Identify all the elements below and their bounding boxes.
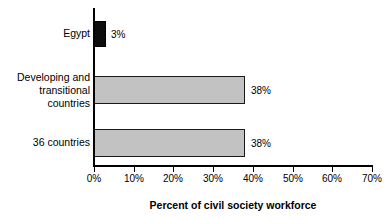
x-tick-70 — [372, 167, 373, 172]
plot-area: Egypt Developing and transitional countr… — [0, 0, 392, 220]
x-tick-label-50: 50% — [273, 173, 313, 185]
bar-value-developing-and-transitional-countries: 38% — [251, 85, 271, 96]
bar-36-countries — [94, 129, 245, 157]
x-tick-0 — [94, 167, 95, 172]
bar-egypt — [94, 21, 106, 47]
y-axis-line — [93, 8, 95, 167]
bar-chart: Egypt Developing and transitional countr… — [0, 0, 392, 220]
x-tick-10 — [134, 167, 135, 172]
x-tick-label-70: 70% — [352, 173, 392, 185]
x-tick-label-30: 30% — [193, 173, 233, 185]
category-label-egypt: Egypt — [0, 27, 90, 40]
x-tick-40 — [253, 167, 254, 172]
x-tick-label-40: 40% — [233, 173, 273, 185]
x-tick-60 — [332, 167, 333, 172]
x-axis-line — [93, 165, 373, 167]
x-tick-label-60: 60% — [312, 173, 352, 185]
category-label-developing-and-transitional-countries: Developing and transitional countries — [0, 71, 90, 110]
category-label-36-countries: 36 countries — [0, 136, 90, 149]
x-tick-label-0: 0% — [74, 173, 114, 185]
bar-developing-and-transitional-countries — [94, 76, 245, 104]
x-axis-title: Percent of civil society workforce — [93, 199, 373, 211]
bar-value-egypt: 3% — [111, 29, 125, 40]
bar-value-36-countries: 38% — [251, 138, 271, 149]
x-tick-label-10: 10% — [114, 173, 154, 185]
x-tick-30 — [213, 167, 214, 172]
x-tick-label-20: 20% — [153, 173, 193, 185]
x-tick-50 — [293, 167, 294, 172]
x-tick-20 — [173, 167, 174, 172]
